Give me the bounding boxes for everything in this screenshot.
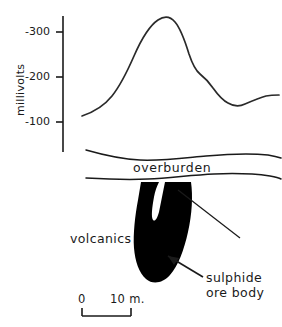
sp-anomaly-curve <box>82 17 279 116</box>
scale-bar-label-start: 0 <box>78 292 86 306</box>
label-sulphide-ore-body-line2: ore body <box>206 285 264 300</box>
axis-tick-label-200: -200 <box>25 70 50 83</box>
scale-bar <box>82 308 131 316</box>
label-sulphide-ore-body-line1: sulphide <box>206 270 262 285</box>
label-overburden: overburden <box>133 160 211 175</box>
scale-bar-label-end: 10 m. <box>110 292 145 306</box>
sulphide-ore-body-shape <box>134 182 192 282</box>
millivolt-axis <box>56 16 63 152</box>
overburden-top-boundary <box>86 150 281 160</box>
axis-tick-label-300: -300 <box>25 25 50 38</box>
label-volcanics: volcanics <box>70 231 131 246</box>
self-potential-figure: -300 -200 -100 millivolts overburden vol… <box>0 0 282 327</box>
axis-title-millivolts: millivolts <box>14 64 27 116</box>
axis-tick-label-100: -100 <box>25 115 50 128</box>
ore-body-main-mass <box>134 182 192 282</box>
